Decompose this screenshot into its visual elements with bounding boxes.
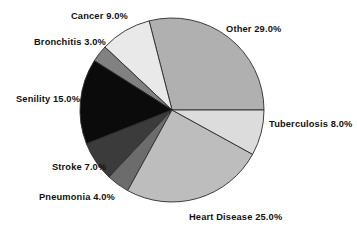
pie-label-tuberculosis: Tuberculosis 8.0%: [269, 120, 353, 129]
pie-slices-group: [80, 18, 264, 202]
pie-label-bronchitis: Bronchitis 3.0%: [34, 38, 106, 47]
pie-label-pneumonia: Pneumonia 4.0%: [39, 193, 115, 202]
pie-label-other: Other 29.0%: [226, 25, 281, 34]
pie-label-stroke: Stroke 7.0%: [52, 163, 106, 172]
pie-label-senility: Senility 15.0%: [16, 95, 80, 104]
pie-label-cancer: Cancer 9.0%: [71, 12, 128, 21]
pie-label-heart-disease: Heart Disease 25.0%: [189, 213, 282, 222]
pie-chart-page: Cancer 9.0% Bronchitis 3.0% Senility 15.…: [0, 0, 357, 233]
